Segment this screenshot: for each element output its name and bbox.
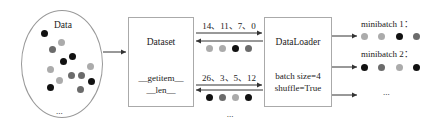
black-sample-dot [206,94,213,101]
black-sample-dot [41,30,48,37]
light-sample-dot [47,66,54,73]
light-sample-dot [378,33,385,40]
dark-sample-dot [245,45,252,52]
dark-sample-dot [68,72,75,79]
black-sample-dot [396,33,403,40]
data-pool-ellipsis: ... [56,107,63,116]
data-pool-title: Data [54,21,72,31]
dataloader-shuffle: shuffle=True [275,84,322,93]
dataset-title: Dataset [147,38,176,48]
dataset-getitem: __getitem__ [139,74,184,83]
light-sample-dot [219,45,226,52]
indices-batch-1: 14、11、7、0 [202,22,256,31]
dark-sample-dot [78,72,85,79]
minibatch-1-label: minibatch 1： [361,20,413,29]
black-sample-dot [361,64,368,71]
light-sample-dot [58,39,65,46]
dataset-len: __len__ [147,86,176,95]
light-sample-dot [87,63,94,70]
black-sample-dot [232,45,239,52]
dark-sample-dot [219,94,226,101]
black-sample-dot [60,58,67,65]
dark-sample-dot [413,33,420,40]
dark-sample-dot [378,64,385,71]
dataloader-box [264,17,332,107]
dark-sample-dot [49,46,56,53]
black-sample-dot [69,53,76,60]
black-sample-dot [245,94,252,101]
black-sample-dot [88,78,95,85]
black-sample-dot [47,84,54,91]
light-sample-dot [396,64,403,71]
light-sample-dot [361,33,368,40]
light-sample-dot [232,94,239,101]
exchange-ellipsis: ... [227,110,234,119]
indices-batch-2: 26、3、5、12 [202,74,256,83]
dataloader-title: DataLoader [276,38,321,48]
black-sample-dot [413,64,420,71]
light-sample-dot [206,45,213,52]
minibatch-2-label: minibatch 2： [361,50,413,59]
minibatch-ellipsis: ... [383,88,390,97]
dark-sample-dot [77,86,84,93]
dataloader-batch-size: batch size=4 [275,72,320,81]
light-sample-dot [56,77,63,84]
